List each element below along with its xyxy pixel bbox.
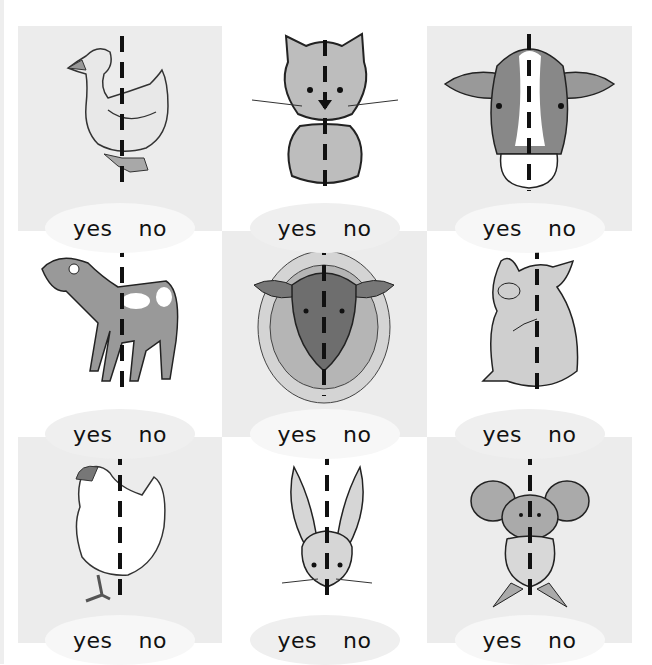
cell-goat: yes no (18, 231, 222, 437)
answer-oval: yes no (250, 409, 400, 459)
cell-duck: yes no (18, 26, 222, 231)
answer-oval: yes no (455, 203, 605, 253)
answer-oval: yes no (455, 409, 605, 459)
no-option[interactable]: no (139, 628, 167, 653)
cell-cat: yes no (222, 26, 427, 231)
cell-pig: yes no (427, 231, 632, 437)
answer-oval: yes no (455, 615, 605, 665)
yes-option[interactable]: yes (73, 422, 113, 447)
page-edge (0, 0, 4, 664)
no-option[interactable]: no (139, 216, 167, 241)
cell-hen: yes no (18, 437, 222, 643)
no-option[interactable]: no (343, 216, 371, 241)
no-option[interactable]: no (548, 216, 576, 241)
yes-option[interactable]: yes (278, 422, 318, 447)
rabbit-icon (222, 437, 427, 612)
yes-option[interactable]: yes (483, 216, 523, 241)
answer-oval: yes no (45, 203, 195, 253)
no-option[interactable]: no (548, 628, 576, 653)
no-option[interactable]: no (139, 422, 167, 447)
pig-icon (427, 231, 632, 406)
cell-mouse: yes no (427, 437, 632, 643)
answer-oval: yes no (45, 409, 195, 459)
cow-icon (427, 26, 632, 201)
symmetry-grid: yes no yes no yes n (18, 26, 632, 643)
hen-icon (18, 437, 222, 612)
yes-option[interactable]: yes (483, 628, 523, 653)
cell-rabbit: yes no (222, 437, 427, 643)
goat-icon (18, 231, 222, 406)
cell-sheep: yes no (222, 231, 427, 437)
no-option[interactable]: no (548, 422, 576, 447)
mouse-icon (427, 437, 632, 612)
sheep-icon (222, 231, 427, 406)
answer-oval: yes no (45, 615, 195, 665)
no-option[interactable]: no (343, 628, 371, 653)
cat-icon (222, 26, 427, 201)
answer-oval: yes no (250, 615, 400, 665)
no-option[interactable]: no (343, 422, 371, 447)
answer-oval: yes no (250, 203, 400, 253)
yes-option[interactable]: yes (483, 422, 523, 447)
yes-option[interactable]: yes (278, 216, 318, 241)
duck-icon (18, 26, 222, 201)
yes-option[interactable]: yes (278, 628, 318, 653)
yes-option[interactable]: yes (73, 216, 113, 241)
yes-option[interactable]: yes (73, 628, 113, 653)
cell-cow: yes no (427, 26, 632, 231)
